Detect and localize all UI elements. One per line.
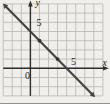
axes [3, 1, 109, 96]
graph-figure: y x 5 5 0 [0, 0, 110, 104]
y-axis-arrow-icon [28, 1, 33, 7]
line-graph [5, 5, 94, 95]
x-axis-label: x [102, 57, 108, 68]
data-point [56, 57, 60, 61]
data-point [38, 39, 42, 43]
y-axis-tick-label: 5 [37, 17, 42, 28]
y-axis-label: y [35, 0, 41, 8]
coordinate-plane: y x 5 5 0 [0, 0, 110, 104]
plotted-line [3, 3, 95, 97]
x-axis-tick-label: 5 [71, 56, 76, 67]
origin-label: 0 [25, 70, 30, 81]
